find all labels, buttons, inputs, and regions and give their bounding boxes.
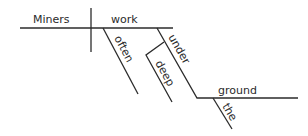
often-word: often bbox=[111, 33, 136, 64]
sentence-diagram: Miners work often under deep ground the bbox=[0, 0, 308, 136]
subject-word: Miners bbox=[33, 13, 70, 26]
verb-word: work bbox=[111, 13, 138, 26]
article-word: the bbox=[219, 101, 239, 123]
object-word: ground bbox=[218, 84, 257, 97]
